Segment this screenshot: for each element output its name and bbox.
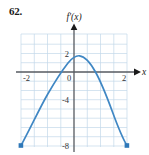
- x-tick-label-neg2: -2: [23, 73, 30, 83]
- y-tick-label-2: 2: [65, 49, 69, 59]
- endpoint-marker-left: [19, 143, 24, 148]
- y-tick-label-neg4: -4: [62, 95, 70, 105]
- x-axis-label: x: [141, 67, 147, 77]
- x-tick-label-0: 0: [67, 73, 71, 83]
- graph-plot: -2 0 2 2 -4 -8 f'(x) x: [0, 0, 149, 155]
- y-axis: [71, 24, 78, 153]
- x-tick-label-2: 2: [122, 73, 126, 83]
- y-tick-label-neg8: -8: [62, 141, 69, 151]
- figure-container: 62.: [0, 0, 149, 155]
- endpoint-marker-right: [125, 143, 130, 148]
- y-axis-label: f'(x): [66, 12, 81, 23]
